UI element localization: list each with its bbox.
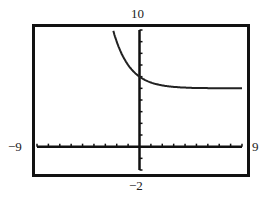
ymin-label: −2 — [129, 178, 143, 194]
ymax-label: 10 — [131, 6, 144, 22]
function-curve — [113, 31, 242, 88]
xmin-label: −9 — [8, 139, 22, 155]
xmax-label: 9 — [252, 139, 259, 155]
graph-screen — [0, 0, 277, 202]
axes — [37, 30, 242, 170]
